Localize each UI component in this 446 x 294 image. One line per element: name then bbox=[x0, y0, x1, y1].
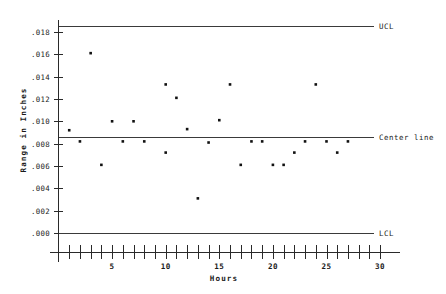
data-point bbox=[164, 83, 167, 86]
data-point bbox=[68, 129, 71, 132]
y-axis-tick-labels: .018.016.014.012.010.008.006.004.002.000 bbox=[31, 28, 50, 238]
data-point bbox=[186, 128, 189, 131]
x-axis-title: Hours bbox=[210, 274, 238, 283]
y-tick-label: .000 bbox=[31, 229, 50, 238]
x-axis-tick-labels: 51015202530 bbox=[110, 262, 385, 271]
y-tick-label: .014 bbox=[31, 73, 50, 82]
y-tick-label: .002 bbox=[31, 207, 50, 216]
data-point bbox=[218, 119, 221, 122]
data-point bbox=[325, 140, 328, 143]
y-tick-label: .008 bbox=[31, 140, 50, 149]
data-point bbox=[282, 164, 285, 167]
control-limit-labels: UCLCenter lineLCL bbox=[379, 22, 434, 238]
data-point bbox=[207, 141, 210, 144]
limit-label-center-line: Center line bbox=[379, 133, 434, 142]
x-tick-label: 10 bbox=[161, 262, 171, 271]
range-control-chart: Range in Inches Hours .018.016.014.012.0… bbox=[0, 0, 446, 294]
data-point bbox=[89, 52, 92, 55]
data-point bbox=[314, 83, 317, 86]
limit-label-UCL: UCL bbox=[379, 22, 394, 31]
y-tick-label: .006 bbox=[31, 162, 50, 171]
chart-canvas: Range in Inches Hours .018.016.014.012.0… bbox=[0, 0, 446, 294]
data-point bbox=[261, 140, 264, 143]
data-point bbox=[272, 164, 275, 167]
data-point bbox=[164, 151, 167, 154]
data-point bbox=[175, 97, 178, 100]
control-limit-lines bbox=[59, 27, 375, 234]
limit-label-LCL: LCL bbox=[379, 229, 394, 238]
y-axis-title: Range in Inches bbox=[19, 87, 28, 172]
y-tick-label: .010 bbox=[31, 117, 50, 126]
data-point bbox=[122, 140, 125, 143]
x-tick-label: 20 bbox=[268, 262, 278, 271]
y-tick-label: .004 bbox=[31, 184, 50, 193]
data-point bbox=[336, 151, 339, 154]
data-point bbox=[250, 140, 253, 143]
data-point bbox=[79, 140, 82, 143]
data-point bbox=[132, 120, 135, 123]
x-tick-label: 5 bbox=[110, 262, 115, 271]
y-tick-label: .016 bbox=[31, 50, 50, 59]
y-tick-label: .012 bbox=[31, 95, 50, 104]
data-point bbox=[111, 120, 114, 123]
data-point-series bbox=[68, 52, 349, 200]
data-point bbox=[197, 197, 200, 200]
data-point bbox=[229, 83, 232, 86]
x-tick-label: 15 bbox=[214, 262, 224, 271]
data-point bbox=[293, 151, 296, 154]
y-tick-label: .018 bbox=[31, 28, 50, 37]
data-point bbox=[239, 164, 242, 167]
data-point bbox=[143, 140, 146, 143]
x-tick-label: 25 bbox=[322, 262, 332, 271]
data-point bbox=[347, 140, 350, 143]
data-point bbox=[100, 164, 103, 167]
x-tick-label: 30 bbox=[375, 262, 385, 271]
data-point bbox=[304, 140, 307, 143]
